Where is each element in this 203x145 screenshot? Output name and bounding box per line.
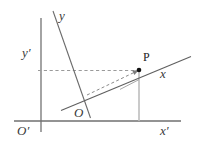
x-axis-label: x (160, 67, 166, 80)
y-prime-axis-label: y′ (22, 46, 31, 59)
y-axis-label: y (59, 9, 65, 22)
point-p-label: P (143, 51, 150, 63)
coordinate-diagram-svg (0, 0, 203, 145)
dashed-vector-arrow (87, 72, 136, 95)
x-axis-line (61, 57, 191, 111)
figure-container: y′ y x x′ O′ O P (0, 0, 203, 145)
y-axis-line (53, 11, 91, 118)
origin-label: O (74, 106, 83, 119)
point-p-marker (137, 68, 142, 73)
origin-prime-label: O′ (17, 124, 29, 137)
x-prime-axis-label: x′ (160, 124, 169, 137)
